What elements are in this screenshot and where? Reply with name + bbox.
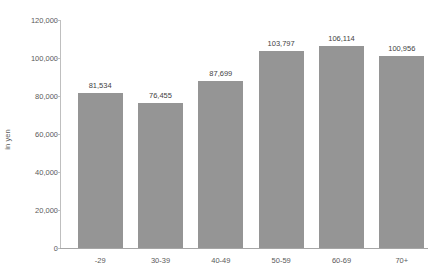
y-axis-tick-label: 100,000	[14, 54, 58, 63]
bar-value-label: 76,455	[149, 91, 172, 100]
bar[interactable]	[259, 51, 304, 248]
x-axis-category-label: -29	[66, 256, 135, 265]
y-axis-tick-mark	[56, 58, 60, 59]
bar-value-label: 103,797	[268, 39, 295, 48]
y-axis-tick-mark	[56, 20, 60, 21]
bar[interactable]	[198, 81, 243, 248]
bar-value-label: 87,699	[209, 69, 232, 78]
bar-column[interactable]: 106,114	[319, 20, 364, 248]
y-axis-tick-labels: 020,00040,00060,00080,000100,000120,000	[12, 0, 58, 279]
bar-value-label: 100,956	[388, 44, 415, 53]
y-axis-tick-mark	[56, 96, 60, 97]
bar-column[interactable]: 76,455	[138, 20, 183, 248]
y-axis-tick-label: 60,000	[14, 130, 58, 139]
y-axis-tick-label: 0	[14, 244, 58, 253]
bar-chart: in yen 020,00040,00060,00080,000100,0001…	[0, 0, 447, 279]
y-axis-tick-mark	[56, 172, 60, 173]
bar-value-label: 81,534	[89, 81, 112, 90]
y-axis-tick-mark	[56, 134, 60, 135]
x-axis-category-label: 50-59	[247, 256, 316, 265]
bar-column[interactable]: 87,699	[198, 20, 243, 248]
x-axis-line	[56, 248, 428, 249]
plot-area: 81,534-2976,45530-3987,69940-49103,79750…	[60, 20, 428, 248]
x-axis-category-label: 60-69	[307, 256, 376, 265]
y-axis-tick-mark	[56, 210, 60, 211]
bar[interactable]	[78, 93, 123, 248]
y-axis-tick-mark	[56, 248, 60, 249]
bar-column[interactable]: 100,956	[379, 20, 424, 248]
bar-column[interactable]: 81,534	[78, 20, 123, 248]
bar[interactable]	[379, 56, 424, 248]
y-axis-tick-label: 40,000	[14, 168, 58, 177]
y-axis-title-text: in yen	[3, 129, 12, 150]
bar[interactable]	[319, 46, 364, 248]
y-axis-line	[60, 20, 61, 248]
y-axis-tick-label: 20,000	[14, 206, 58, 215]
y-axis-tick-label: 80,000	[14, 92, 58, 101]
x-axis-category-label: 30-39	[126, 256, 195, 265]
bar[interactable]	[138, 103, 183, 248]
x-axis-category-label: 70+	[367, 256, 436, 265]
bar-column[interactable]: 103,797	[259, 20, 304, 248]
y-axis-tick-label: 120,000	[14, 16, 58, 25]
bar-value-label: 106,114	[328, 34, 355, 43]
x-axis-category-label: 40-49	[186, 256, 255, 265]
